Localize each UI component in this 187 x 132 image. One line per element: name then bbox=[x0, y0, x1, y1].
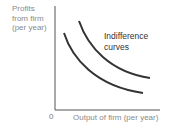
y-axis-label-line2: from firm bbox=[12, 14, 47, 24]
curves-label-line1: Indifference bbox=[104, 31, 148, 42]
y-axis-label-line1: Profits bbox=[12, 4, 47, 14]
y-axis-label-line3: (per year) bbox=[12, 23, 47, 33]
curves-label-line2: curves bbox=[104, 42, 148, 53]
y-axis-label: Profits from firm (per year) bbox=[12, 4, 47, 33]
x-axis-label: Output of firm (per year) bbox=[73, 113, 158, 123]
origin-label: 0 bbox=[49, 112, 53, 122]
curves-label: Indifference curves bbox=[104, 31, 148, 53]
